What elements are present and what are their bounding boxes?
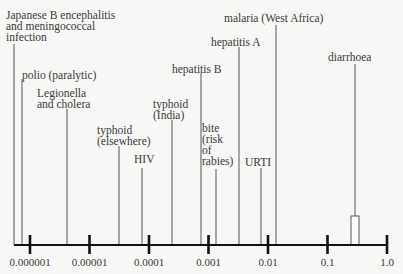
item-label: typhoid (elsewhere) bbox=[97, 125, 151, 147]
x-tick-label: 0.00001 bbox=[72, 256, 108, 268]
item-label: diarrhoea bbox=[328, 52, 371, 63]
item-label: Japanese B encephalitis and meningococca… bbox=[6, 10, 115, 43]
item-label: HIV bbox=[134, 154, 154, 165]
item-label: typhoid (India) bbox=[153, 99, 188, 121]
x-tick-label: 1.0 bbox=[380, 256, 394, 268]
x-tick-label: 0.0001 bbox=[134, 256, 164, 268]
x-tick-label: 0.1 bbox=[321, 256, 335, 268]
x-tick-label: 0.01 bbox=[258, 256, 277, 268]
item-label: URTI bbox=[245, 157, 271, 168]
range-box bbox=[351, 216, 359, 245]
item-label: bite (risk of rabies) bbox=[202, 123, 233, 167]
x-tick-label: 0.000001 bbox=[9, 256, 50, 268]
item-label: malaria (West Africa) bbox=[224, 13, 323, 24]
item-label: hepatitis B bbox=[172, 64, 222, 75]
x-tick-label: 0.001 bbox=[196, 256, 221, 268]
item-label: Legionella and cholera bbox=[37, 88, 90, 110]
incidence-lines bbox=[14, 25, 359, 245]
item-label: hepatitis A bbox=[211, 37, 261, 48]
item-label: polio (paralytic) bbox=[22, 70, 96, 81]
